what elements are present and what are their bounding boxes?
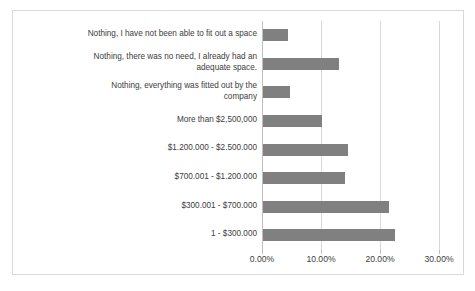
bar-nothing-no-need-adequate-space[interactable] (263, 58, 339, 70)
bar-row (263, 135, 440, 164)
category-label-line: 1 - $300.000 (35, 229, 257, 240)
bar-row (263, 78, 440, 107)
category-label-line: $1.200.000 - $2.500.000 (35, 143, 257, 154)
bar-nothing-not-able-to-fit-out[interactable] (263, 29, 288, 41)
bar-row (263, 221, 440, 250)
bar-row (263, 21, 440, 50)
category-label-line: Nothing, everything was fitted out by th… (35, 81, 257, 92)
value-axis-tick-30: 30.00% (424, 254, 453, 264)
bar-row (263, 164, 440, 193)
category-label-line: adequate space. (35, 63, 257, 74)
bar-row (263, 107, 440, 136)
bar-more-than-2500000[interactable] (263, 115, 322, 127)
category-label-more-than-2500000: More than $2,500,000 (35, 115, 257, 126)
bar-1200000-to-2500000[interactable] (263, 144, 348, 156)
category-label-line: More than $2,500,000 (35, 115, 257, 126)
category-label-line: Nothing, there was no need, I already ha… (35, 52, 257, 63)
plot-area (262, 21, 440, 250)
category-label-nothing-no-need-adequate-space: Nothing, there was no need, I already ha… (35, 52, 257, 73)
category-label-line: Nothing, I have not been able to fit out… (35, 29, 257, 40)
value-axis-tick-20: 20.00% (365, 254, 394, 264)
bar-1-to-300000[interactable] (263, 229, 395, 241)
category-label-1-to-300000: 1 - $300.000 (35, 229, 257, 240)
bar-700001-to-1200000[interactable] (263, 172, 345, 184)
value-axis-tick-0: 0.00% (250, 254, 274, 264)
value-axis-labels: 0.00% 10.00% 20.00% 30.00% (262, 254, 440, 270)
category-label-1200000-to-2500000: $1.200.000 - $2.500.000 (35, 143, 257, 154)
category-label-700001-to-1200000: $700.001 - $1.200.000 (35, 172, 257, 183)
bar-row (263, 193, 440, 222)
bar-row (263, 50, 440, 79)
category-label-nothing-fitted-out-by-company: Nothing, everything was fitted out by th… (35, 81, 257, 102)
category-label-line: $300.001 - $700.000 (35, 201, 257, 212)
category-label-line: $700.001 - $1.200.000 (35, 172, 257, 183)
category-label-nothing-not-able-to-fit-out: Nothing, I have not been able to fit out… (35, 29, 257, 40)
category-label-line: company (35, 92, 257, 103)
chart-container: Nothing, I have not been able to fit out… (12, 10, 464, 275)
value-axis-tick-10: 10.00% (306, 254, 335, 264)
category-label-300001-to-700000: $300.001 - $700.000 (35, 201, 257, 212)
bar-300001-to-700000[interactable] (263, 201, 389, 213)
bar-nothing-fitted-out-by-company[interactable] (263, 86, 290, 98)
